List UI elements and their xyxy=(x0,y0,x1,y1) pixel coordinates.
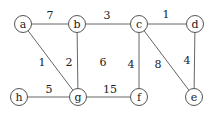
edge-weight-h-g: 5 xyxy=(46,84,53,95)
node-d: d xyxy=(186,15,204,33)
node-h: h xyxy=(10,88,28,106)
weighted-graph-diagram: 731124845156 abcdhgfe xyxy=(0,0,215,118)
edge-b-g xyxy=(77,24,78,97)
node-f: f xyxy=(130,88,148,106)
node-g: g xyxy=(69,88,87,106)
edge-weight-c-e: 8 xyxy=(155,59,162,70)
edge-weight-c-f: 4 xyxy=(128,59,135,70)
edge-weight-g-f: 15 xyxy=(103,84,117,95)
edge-weight-b-g: 2 xyxy=(66,57,73,68)
face-label: 6 xyxy=(100,57,107,68)
edge-d-e xyxy=(194,24,195,97)
edge-weight-a-b: 7 xyxy=(47,10,54,21)
node-e: e xyxy=(185,88,203,106)
node-c: c xyxy=(130,15,148,33)
edge-weight-a-g: 1 xyxy=(39,57,46,68)
edge-weight-b-c: 3 xyxy=(104,10,111,21)
node-b: b xyxy=(68,15,86,33)
node-a: a xyxy=(14,15,32,33)
edge-weight-d-e: 4 xyxy=(184,55,191,66)
edge-weight-c-d: 1 xyxy=(163,9,170,20)
